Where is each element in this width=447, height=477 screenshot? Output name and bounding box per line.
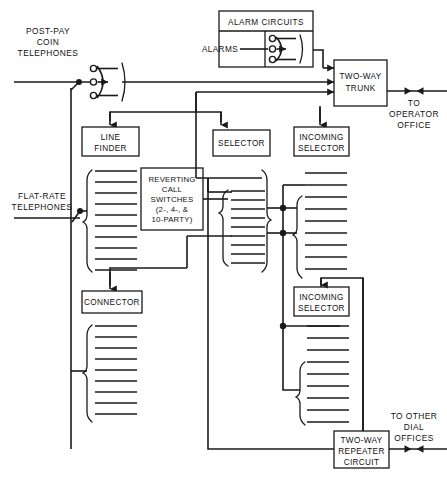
- to-operator-office-link: [387, 87, 447, 95]
- alarm-circuits-header-text: ALARM CIRCUITS: [228, 18, 304, 27]
- linefinder-selector-feed: [110, 112, 221, 122]
- alarm-to-trunk-wire: [313, 50, 323, 68]
- svg-text:TELEPHONES: TELEPHONES: [18, 48, 79, 58]
- two-way-trunk-box: [334, 60, 387, 106]
- trunking-diagram: POST-PAY COIN TELEPHONES FLAT-RATE TELEP…: [0, 0, 447, 477]
- line-finder-bank: [83, 170, 137, 272]
- reverting-call-switches-label: REVERTING CALL SWITCHES (2-, 4-, & 10-PA…: [148, 175, 195, 224]
- svg-text:REPEATER: REPEATER: [338, 447, 384, 456]
- svg-text:CIRCUIT: CIRCUIT: [344, 458, 380, 467]
- selector-bank-outer-bracket: [262, 170, 271, 272]
- svg-text:REVERTING: REVERTING: [148, 175, 195, 184]
- selector-bank: [219, 190, 265, 266]
- svg-text:TO: TO: [408, 98, 420, 108]
- svg-text:OFFICE: OFFICE: [397, 120, 430, 130]
- svg-text:TRUNK: TRUNK: [346, 84, 376, 93]
- incoming-selector-lower-bank: [296, 326, 349, 425]
- svg-text:SELECTOR: SELECTOR: [298, 144, 345, 153]
- to-operator-office-label: TO OPERATOR OFFICE: [389, 98, 439, 130]
- svg-text:(2-, 4-, &: (2-, 4-, &: [156, 205, 189, 214]
- svg-text:OFFICES: OFFICES: [394, 433, 433, 443]
- svg-text:COIN: COIN: [37, 37, 60, 47]
- coin-wiper-arm: [71, 82, 79, 90]
- svg-text:TO OTHER: TO OTHER: [391, 411, 438, 421]
- flat-rate-telephones-label: FLAT-RATE TELEPHONES: [12, 191, 73, 212]
- connector-label: CONNECTOR: [84, 298, 140, 307]
- svg-text:CALL: CALL: [162, 185, 183, 194]
- flat-rate-wiper-arm: [72, 211, 80, 222]
- svg-text:FLAT-RATE: FLAT-RATE: [18, 191, 66, 201]
- svg-text:OPERATOR: OPERATOR: [389, 109, 439, 119]
- coin-selector-symbol: [14, 63, 125, 101]
- svg-text:LINE: LINE: [101, 133, 121, 142]
- two-way-repeater-label: TWO-WAY REPEATER CIRCUIT: [338, 436, 384, 467]
- svg-text:INCOMING: INCOMING: [299, 293, 344, 302]
- to-other-dial-offices-link: [389, 445, 447, 453]
- connector-bank: [83, 325, 137, 422]
- incoming-selector-top-bank: [293, 173, 347, 278]
- svg-text:SELECTOR: SELECTOR: [298, 304, 345, 313]
- selector-label: SELECTOR: [218, 139, 265, 148]
- svg-text:TWO-WAY: TWO-WAY: [339, 72, 381, 81]
- svg-text:10-PARTY): 10-PARTY): [152, 215, 193, 224]
- alarms-label-text: ALARMS: [202, 45, 238, 54]
- svg-text:TELEPHONES: TELEPHONES: [12, 202, 73, 212]
- diagram-canvas: POST-PAY COIN TELEPHONES FLAT-RATE TELEP…: [0, 0, 447, 477]
- svg-text:SWITCHES: SWITCHES: [151, 195, 194, 204]
- post-pay-coin-telephones-label: POST-PAY COIN TELEPHONES: [18, 26, 79, 58]
- svg-text:INCOMING: INCOMING: [299, 133, 344, 142]
- svg-text:TWO-WAY: TWO-WAY: [340, 436, 382, 445]
- svg-text:FINDER: FINDER: [94, 144, 127, 153]
- svg-text:DIAL: DIAL: [404, 422, 424, 432]
- bus-to-lower-bank: [283, 326, 300, 390]
- to-other-dial-offices-label: TO OTHER DIAL OFFICES: [391, 411, 438, 443]
- svg-text:POST-PAY: POST-PAY: [26, 26, 70, 36]
